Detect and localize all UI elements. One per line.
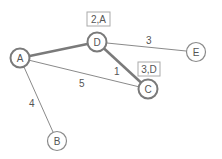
edge-A-B [20,58,57,141]
edge-weight-D-C: 1 [114,66,120,77]
node-label-C: C [144,84,151,95]
edges [20,42,196,141]
node-label-B: B [54,136,61,147]
edge-weight-A-C: 5 [79,78,85,89]
node-label-D: D [93,37,100,48]
node-B: B [48,132,67,151]
node-D: D [88,33,107,52]
annotation-text-D: 2,A [91,14,106,25]
annotation-text-C: 3,D [141,64,157,75]
graph-diagram: 3 1 5 4 2,A 3,D A D E C B [0,0,222,159]
edge-A-D [20,42,97,58]
node-label-E: E [193,47,200,58]
node-label-A: A [17,53,24,64]
edge-weight-A-B: 4 [29,98,35,109]
node-E: E [187,43,206,62]
node-C: C [139,80,158,99]
edge-weight-D-E: 3 [146,35,152,46]
node-A: A [11,49,30,68]
